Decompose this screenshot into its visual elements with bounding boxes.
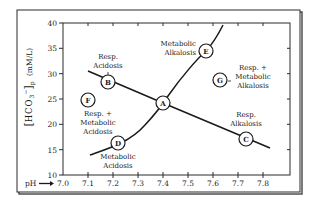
label-metabolic-alkalosis-line1: Metabolic [161, 40, 196, 48]
svg-text:A: A [159, 99, 166, 108]
x-tick-7-4: 7.4 [157, 179, 169, 188]
svg-text:[HCO3−]p: [HCO3−]p [22, 81, 36, 126]
x-tick-7-5: 7.5 [182, 179, 194, 188]
label-metabolic-acidosis-line1: Metabolic [100, 153, 135, 161]
x-tick-7-8: 7.8 [257, 179, 269, 188]
y-axis-units: (mM/L) [25, 48, 34, 76]
label-resp-metabolic-alkalosis-line2: Metabolic [235, 73, 270, 81]
label-metabolic-acidosis-line2: Acidosis [102, 162, 133, 170]
svg-text:B: B [105, 78, 111, 87]
x-tick-7-0: 7.0 [57, 179, 69, 188]
label-resp-metabolic-acidosis-line2: Metabolic [80, 119, 115, 127]
label-resp-alkalosis-line2: Alkalosis [229, 120, 262, 128]
label-metabolic-alkalosis-line2: Alkalosis [163, 49, 196, 57]
x-tick-7-6: 7.6 [207, 179, 219, 188]
x-axis-tick-labels: 7.0 7.1 7.2 7.3 7.4 7.5 7.6 7.7 7.8 [57, 179, 269, 188]
svg-text:G: G [217, 76, 223, 85]
label-resp-alkalosis-line1: Resp. [236, 111, 256, 119]
svg-text:F: F [86, 96, 91, 105]
svg-text:(mM/L): (mM/L) [25, 48, 34, 76]
y-tick-10: 10 [47, 171, 57, 180]
x-axis-label: pH [25, 179, 37, 188]
y-tick-20: 20 [47, 120, 57, 129]
y-axis-label: [HCO3−]p [22, 81, 36, 126]
label-resp-metabolic-acidosis-line1: Resp. + [84, 110, 112, 118]
label-resp-metabolic-alkalosis-line1: Resp. + [239, 64, 267, 72]
label-resp-metabolic-acidosis-line3: Acidosis [82, 128, 113, 136]
x-tick-7-3: 7.3 [132, 179, 144, 188]
y-tick-15: 15 [47, 146, 57, 155]
y-axis-formula: HCO [24, 98, 34, 122]
x-tick-7-1: 7.1 [82, 179, 94, 188]
y-tick-25: 25 [47, 95, 57, 104]
y-tick-40: 40 [47, 19, 57, 28]
x-tick-7-7: 7.7 [232, 179, 244, 188]
label-resp-acidosis-line2: Acidosis [92, 62, 123, 70]
x-tick-7-2: 7.2 [107, 179, 119, 188]
y-tick-35: 35 [47, 44, 57, 53]
label-resp-acidosis-line1: Resp. [98, 53, 118, 61]
svg-text:C: C [243, 135, 249, 144]
point-a: A [156, 96, 170, 110]
svg-text:E: E [203, 47, 208, 56]
svg-text:D: D [115, 139, 121, 148]
y-tick-30: 30 [47, 70, 57, 79]
label-resp-metabolic-alkalosis-line3: Alkalosis [236, 82, 269, 90]
acid-base-diagram: 40 35 30 25 20 15 10 7.0 7.1 7.2 7.3 7.4… [0, 0, 315, 201]
